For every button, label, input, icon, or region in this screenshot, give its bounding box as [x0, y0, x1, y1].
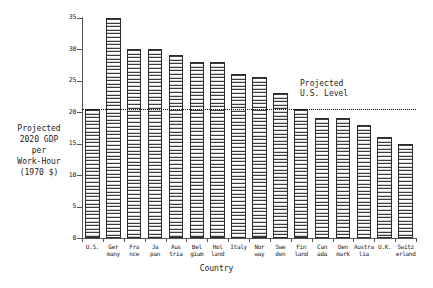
- bar: [377, 137, 392, 238]
- bar: [294, 109, 309, 238]
- y-tick-label: 0: [62, 235, 76, 242]
- x-tick-label: Den mark: [333, 243, 354, 257]
- x-tick-label: U.K.: [374, 243, 395, 250]
- y-tick-mark: [77, 112, 83, 113]
- x-tick-label: Italy: [228, 243, 249, 250]
- x-tick-label: Ja pan: [145, 243, 166, 257]
- bar: [398, 144, 413, 239]
- bar: [190, 62, 205, 238]
- x-tick-label: Nor way: [249, 243, 270, 257]
- y-tick-label-wrap: 15: [58, 140, 76, 147]
- y-tick-label-wrap: 0: [58, 235, 76, 242]
- x-tick-label: Can ada: [312, 243, 333, 257]
- y-tick-mark: [77, 207, 83, 208]
- x-tick-label: Bel gium: [186, 243, 207, 257]
- x-tick-label: Ger many: [103, 243, 124, 257]
- y-tick-label-wrap: 20: [58, 109, 76, 116]
- x-tick-mark: [291, 238, 292, 242]
- bar: [127, 49, 142, 238]
- x-tick-label: Swe den: [270, 243, 291, 257]
- x-tick-mark: [395, 238, 396, 242]
- projected-us-level-label: Projected U.S. Level: [300, 79, 420, 99]
- y-tick-mark: [77, 175, 83, 176]
- y-tick-label: 5: [62, 203, 76, 210]
- y-tick-label: 25: [62, 77, 76, 84]
- x-tick-mark: [124, 238, 125, 242]
- x-tick-mark: [82, 238, 83, 242]
- bar: [273, 93, 288, 238]
- x-tick-label: Aus tria: [166, 243, 187, 257]
- y-tick-mark: [77, 18, 83, 19]
- chart-container: Projected 2020 GDP per Work-Hour (1970 $…: [0, 0, 433, 288]
- x-tick-label: Fra nce: [124, 243, 145, 257]
- x-tick-mark: [166, 238, 167, 242]
- x-tick-mark: [374, 238, 375, 242]
- x-tick-mark: [270, 238, 271, 242]
- x-axis-title: Country: [0, 264, 433, 273]
- y-tick-label-wrap: 35: [58, 14, 76, 21]
- y-tick-mark: [77, 49, 83, 50]
- y-tick-label-wrap: 5: [58, 203, 76, 210]
- bar: [106, 18, 121, 239]
- x-tick-label: Fin land: [291, 243, 312, 257]
- bar: [85, 109, 100, 238]
- y-tick-label-wrap: 30: [58, 46, 76, 53]
- x-tick-mark: [103, 238, 104, 242]
- x-tick-mark: [145, 238, 146, 242]
- bar: [336, 118, 351, 238]
- y-tick-label-wrap: 10: [58, 172, 76, 179]
- x-tick-label: U.S.: [82, 243, 103, 250]
- y-tick-label-wrap: 25: [58, 77, 76, 84]
- y-tick-label: 20: [62, 109, 76, 116]
- y-tick-label: 30: [62, 46, 76, 53]
- x-tick-mark: [353, 238, 354, 242]
- bar: [210, 62, 225, 238]
- x-tick-mark: [186, 238, 187, 242]
- bar: [315, 118, 330, 238]
- bar: [252, 77, 267, 238]
- bar: [357, 125, 372, 238]
- x-tick-mark: [228, 238, 229, 242]
- y-tick-label: 10: [62, 172, 76, 179]
- x-tick-mark: [207, 238, 208, 242]
- x-tick-label: Hol land: [207, 243, 228, 257]
- projected-us-level-line: [82, 109, 416, 110]
- y-tick-label: 35: [62, 14, 76, 21]
- bar: [231, 74, 246, 238]
- x-tick-mark: [333, 238, 334, 242]
- y-tick-mark: [77, 81, 83, 82]
- x-tick-mark: [249, 238, 250, 242]
- x-tick-label: Austra lia: [353, 243, 374, 257]
- x-tick-mark: [416, 238, 417, 242]
- y-tick-label: 15: [62, 140, 76, 147]
- y-axis-title: Projected 2020 GDP per Work-Hour (1970 $…: [2, 123, 76, 178]
- bar: [169, 55, 184, 238]
- y-tick-mark: [77, 144, 83, 145]
- bar: [148, 49, 163, 238]
- x-tick-mark: [312, 238, 313, 242]
- x-tick-label: Switz erland: [395, 243, 416, 257]
